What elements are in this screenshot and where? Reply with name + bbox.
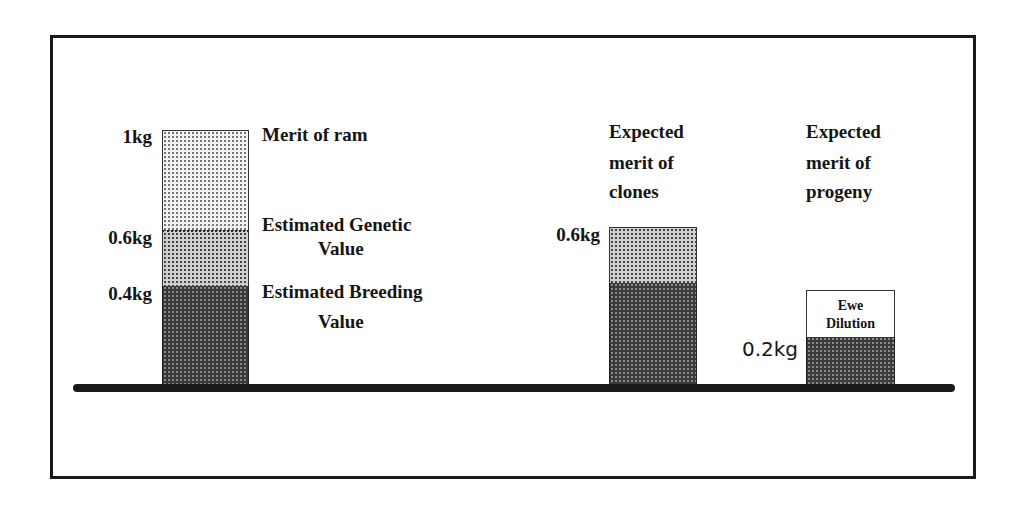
ebv-label-line2: Value (318, 310, 364, 333)
clones-bar-genetic-segment (609, 227, 697, 283)
merit-of-ram-label: Merit of ram (262, 123, 368, 146)
ebv-label-line1: Estimated Breeding (262, 280, 423, 303)
ewe-dilution-segment: Ewe Dilution (806, 290, 895, 338)
ram-bar-egv-segment (162, 230, 249, 286)
clones-title-line1: Expected (609, 120, 684, 143)
ram-bar-remainder-segment (162, 130, 249, 231)
ewe-dilution-label-line2: Dilution (807, 315, 894, 332)
clones-bar-ebv-segment (609, 283, 697, 387)
ram-value-0-4kg: 0.4kg (70, 283, 152, 305)
egv-label-line2: Value (318, 237, 364, 260)
ram-value-0-6kg: 0.6kg (70, 227, 152, 249)
progeny-title-line3: progeny (806, 180, 872, 203)
ram-value-1kg: 1kg (80, 126, 152, 148)
progeny-title-line2: merit of (806, 151, 871, 174)
ewe-dilution-label-line1: Ewe (807, 297, 894, 314)
ram-bar (162, 130, 249, 387)
clones-value: 0.6kg (520, 224, 600, 246)
progeny-title-line1: Expected (806, 120, 881, 143)
progeny-value: 0.2kg (720, 338, 798, 360)
egv-label-line1: Estimated Genetic (262, 213, 411, 236)
ram-bar-ebv-segment (162, 286, 249, 387)
clones-bar (609, 227, 697, 387)
clones-title-line2: merit of (609, 151, 674, 174)
progeny-bar: Ewe Dilution (806, 290, 895, 387)
baseline (73, 384, 955, 392)
progeny-bar-ebv-segment (806, 337, 895, 387)
clones-title-line3: clones (609, 180, 659, 203)
